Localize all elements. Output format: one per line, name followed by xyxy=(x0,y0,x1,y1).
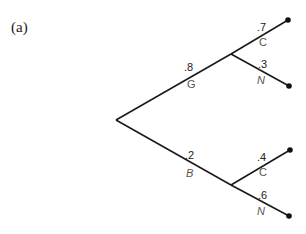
edge-root-to-G xyxy=(116,54,231,120)
prob-label-BC: .4 xyxy=(257,151,266,163)
outcome-label-BN: N xyxy=(257,205,265,217)
outcome-label-G: G xyxy=(187,78,196,90)
prob-label-B: .2 xyxy=(185,149,194,161)
outcome-label-B: B xyxy=(186,167,193,179)
prob-label-GN: .3 xyxy=(258,58,267,70)
probability-tree: .8 G .2 B .7 C .3 N .4 C .6 N xyxy=(0,0,306,234)
outcome-label-GC: C xyxy=(259,36,267,48)
prob-label-GC: .7 xyxy=(257,21,266,33)
leaf-node-BC xyxy=(287,147,293,153)
prob-label-G: .8 xyxy=(184,61,193,73)
prob-label-BN: .6 xyxy=(258,189,267,201)
outcome-label-GN: N xyxy=(257,74,265,86)
leaf-node-GC xyxy=(285,17,291,23)
leaf-node-BN xyxy=(286,213,292,219)
outcome-label-BC: C xyxy=(259,166,267,178)
edge-root-to-B xyxy=(116,120,231,185)
leaf-node-GN xyxy=(286,83,292,89)
